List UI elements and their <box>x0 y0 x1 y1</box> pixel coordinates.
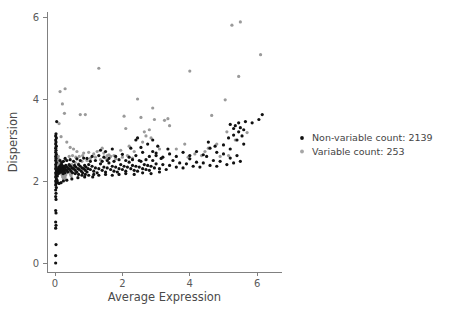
data-point-non_variable <box>192 165 195 168</box>
data-point-variable <box>87 151 90 154</box>
data-point-non_variable <box>215 165 218 168</box>
data-point-non_variable <box>114 155 117 158</box>
data-point-non_variable <box>122 165 125 168</box>
data-point-non_variable <box>119 163 122 166</box>
data-point-non_variable <box>71 171 74 174</box>
data-point-non_variable <box>181 166 184 169</box>
data-point-non_variable <box>212 159 215 162</box>
data-point-non_variable <box>202 153 205 156</box>
data-point-variable <box>84 113 87 116</box>
data-point-variable <box>168 124 171 127</box>
data-point-non_variable <box>225 163 228 166</box>
data-point-non_variable <box>237 130 240 133</box>
data-point-non_variable <box>168 164 171 167</box>
data-point-variable <box>175 147 178 150</box>
y-axis-title: Dispersion <box>6 112 20 173</box>
data-point-non_variable <box>141 171 144 174</box>
data-point-non_variable <box>151 159 154 162</box>
data-point-non_variable <box>121 168 124 171</box>
series-non_variable <box>54 113 264 265</box>
data-point-non_variable <box>208 147 211 150</box>
data-point-variable <box>245 131 248 134</box>
data-point-non_variable <box>54 195 57 198</box>
data-point-non_variable <box>90 155 93 158</box>
data-point-non_variable <box>237 121 240 124</box>
data-point-non_variable <box>144 158 147 161</box>
data-point-non_variable <box>54 254 57 257</box>
data-point-non_variable <box>104 173 107 176</box>
data-point-variable <box>230 24 233 27</box>
data-point-non_variable <box>232 161 235 164</box>
y-tick-label: 2 <box>33 176 39 187</box>
data-point-non_variable <box>106 159 109 162</box>
data-point-non_variable <box>166 147 169 150</box>
data-point-variable <box>210 114 213 117</box>
data-point-non_variable <box>97 154 100 157</box>
data-point-non_variable <box>240 134 243 137</box>
data-point-non_variable <box>85 157 88 160</box>
data-point-non_variable <box>244 120 247 123</box>
data-point-non_variable <box>134 154 137 157</box>
data-point-non_variable <box>149 165 152 168</box>
data-point-non_variable <box>87 163 90 166</box>
data-point-non_variable <box>146 164 149 167</box>
data-point-variable <box>166 117 169 120</box>
data-point-non_variable <box>208 164 211 167</box>
data-point-non_variable <box>251 121 254 124</box>
data-point-variable <box>122 115 125 118</box>
data-point-non_variable <box>138 165 141 168</box>
data-point-non_variable <box>54 261 57 264</box>
data-point-variable <box>225 130 228 133</box>
data-point-variable <box>151 106 154 109</box>
data-point-non_variable <box>155 154 158 157</box>
data-point-non_variable <box>117 158 120 161</box>
data-point-non_variable <box>106 166 109 169</box>
data-point-non_variable <box>80 174 83 177</box>
data-point-variable <box>124 127 127 130</box>
data-point-non_variable <box>83 175 86 178</box>
data-point-non_variable <box>54 192 57 195</box>
data-point-non_variable <box>195 161 198 164</box>
data-point-non_variable <box>141 151 144 154</box>
data-point-variable <box>75 150 78 153</box>
x-axis-title: Average Expression <box>108 290 221 304</box>
data-point-non_variable <box>222 143 225 146</box>
data-point-non_variable <box>112 170 115 173</box>
data-point-non_variable <box>215 151 218 154</box>
data-point-non_variable <box>198 165 201 168</box>
data-point-non_variable <box>124 172 127 175</box>
data-point-variable <box>58 90 61 93</box>
data-point-non_variable <box>54 243 57 246</box>
data-point-non_variable <box>128 156 131 159</box>
y-tick-label: 0 <box>33 258 39 269</box>
data-point-non_variable <box>168 152 171 155</box>
data-point-non_variable <box>69 158 72 161</box>
data-point-non_variable <box>126 165 129 168</box>
data-point-variable <box>259 53 262 56</box>
data-point-variable <box>63 112 66 115</box>
y-tick-label: 6 <box>33 12 39 23</box>
data-point-non_variable <box>99 149 102 152</box>
data-point-variable <box>148 128 151 131</box>
data-point-variable <box>121 156 124 159</box>
data-point-variable <box>94 156 97 159</box>
data-point-non_variable <box>62 179 65 182</box>
data-point-non_variable <box>148 155 151 158</box>
data-point-non_variable <box>54 198 57 201</box>
data-point-non_variable <box>121 153 124 156</box>
data-point-non_variable <box>129 147 132 150</box>
data-point-non_variable <box>79 159 82 162</box>
data-point-non_variable <box>136 170 139 173</box>
data-point-non_variable <box>54 220 57 223</box>
data-point-non_variable <box>54 209 57 212</box>
data-point-non_variable <box>160 157 163 160</box>
data-point-non_variable <box>139 146 142 149</box>
data-point-non_variable <box>171 159 174 162</box>
data-point-variable <box>144 134 147 137</box>
data-point-non_variable <box>97 167 100 170</box>
data-point-non_variable <box>55 120 58 123</box>
data-point-non_variable <box>155 162 158 165</box>
data-point-non_variable <box>92 170 95 173</box>
data-point-non_variable <box>156 145 159 148</box>
data-point-non_variable <box>242 143 245 146</box>
